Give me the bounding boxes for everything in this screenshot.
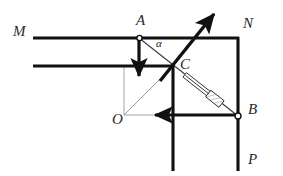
label-a: A xyxy=(136,13,145,28)
label-angle-alpha: α xyxy=(156,38,162,49)
label-b: B xyxy=(248,102,257,117)
label-n: N xyxy=(243,16,253,31)
label-c: C xyxy=(180,57,190,72)
label-o: O xyxy=(112,112,123,127)
pivot-circle-b xyxy=(235,113,241,119)
geometry-figure: M N A B C O P α xyxy=(0,0,283,176)
label-p: P xyxy=(248,152,257,167)
label-m: M xyxy=(13,24,26,39)
pivot-circle-a xyxy=(137,35,142,40)
